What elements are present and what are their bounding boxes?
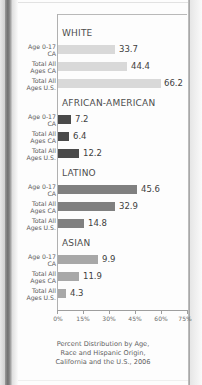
row-label-line2: Ages U.S. <box>26 154 56 161</box>
bar-aa-age017 <box>58 115 71 124</box>
x-tick-label-5: 75% <box>178 315 191 322</box>
x-tick-0 <box>57 310 58 314</box>
bar-white-total-ca <box>58 62 127 71</box>
y-axis-line <box>57 14 58 310</box>
caption-line-3: California and the U.S., 2006 <box>22 358 184 367</box>
x-tick-3 <box>135 310 136 314</box>
row-label-aa-age017: Age 0-17 CA <box>8 114 56 127</box>
group-title-asian: ASIAN <box>62 238 90 248</box>
bar-value-asian-total-us: 4.3 <box>70 288 84 298</box>
caption-line-2: Race and Hispanic Origin, <box>22 349 184 358</box>
bar-value-aa-total-us: 12.2 <box>83 148 102 158</box>
x-tick-label-2: 30% <box>102 315 115 322</box>
row-label-line2: Ages CA <box>30 137 56 144</box>
bar-value-white-total-us: 66.2 <box>164 78 183 88</box>
x-tick-label-0: 0% <box>53 315 63 322</box>
bar-value-white-age017: 33.7 <box>119 44 138 54</box>
row-label-latino-age017: Age 0-17 CA <box>8 184 56 197</box>
x-tick-label-3: 45% <box>128 315 141 322</box>
row-label-latino-total-ca: Total All Ages CA <box>8 201 56 214</box>
row-label-line2: Ages U.S. <box>26 294 56 301</box>
row-label-asian-total-us: Total All Ages U.S. <box>8 288 56 301</box>
row-label-line2: CA <box>47 50 56 57</box>
bar-value-aa-total-ca: 6.4 <box>73 131 87 141</box>
bar-value-white-total-ca: 44.4 <box>131 61 150 71</box>
bar-value-latino-total-us: 14.8 <box>88 218 107 228</box>
group-title-white: WHITE <box>62 28 93 38</box>
row-label-white-total-ca: Total All Ages CA <box>8 61 56 74</box>
row-label-line2: Ages CA <box>30 67 56 74</box>
group-title-latino: LATINO <box>62 168 96 178</box>
row-label-line2: CA <box>47 260 56 267</box>
bar-aa-total-us <box>58 149 79 158</box>
bar-value-asian-age017: 9.9 <box>102 254 116 264</box>
bar-aa-total-ca <box>58 132 69 141</box>
bar-latino-total-ca <box>58 202 115 211</box>
bar-value-latino-age017: 45.6 <box>141 184 160 194</box>
chart-caption: Percent Distribution by Age, Race and Hi… <box>22 340 184 367</box>
x-axis-line <box>57 310 187 311</box>
row-label-asian-age017: Age 0-17 CA <box>8 254 56 267</box>
row-label-line2: CA <box>47 190 56 197</box>
bar-value-latino-total-ca: 32.9 <box>119 201 138 211</box>
x-tick-5 <box>187 310 188 314</box>
x-tick-label-1: 15% <box>76 315 89 322</box>
caption-line-1: Percent Distribution by Age, <box>22 340 184 349</box>
bar-asian-age017 <box>58 255 98 264</box>
row-label-line2: Ages CA <box>30 277 56 284</box>
row-label-aa-total-us: Total All Ages U.S. <box>8 148 56 161</box>
row-label-line2: CA <box>47 120 56 127</box>
row-label-aa-total-ca: Total All Ages CA <box>8 131 56 144</box>
bar-latino-total-us <box>58 219 84 228</box>
row-label-white-age017: Age 0-17 CA <box>8 44 56 57</box>
bar-asian-total-us <box>58 289 66 298</box>
row-label-asian-total-ca: Total All Ages CA <box>8 271 56 284</box>
row-label-line2: Ages U.S. <box>26 224 56 231</box>
plot-top-rule <box>57 14 187 15</box>
bar-asian-total-ca <box>58 272 79 281</box>
x-tick-4 <box>161 310 162 314</box>
bar-value-aa-age017: 7.2 <box>75 114 89 124</box>
group-title-african-american: AFRICAN-AMERICAN <box>62 98 155 108</box>
bar-white-total-us <box>58 79 161 88</box>
x-tick-label-4: 60% <box>154 315 167 322</box>
x-tick-1 <box>83 310 84 314</box>
bar-latino-age017 <box>58 185 137 194</box>
bar-white-age017 <box>58 45 115 54</box>
row-label-white-total-us: Total All Ages U.S. <box>8 78 56 91</box>
bar-value-asian-total-ca: 11.9 <box>83 271 102 281</box>
row-label-line2: Ages CA <box>30 207 56 214</box>
x-tick-2 <box>109 310 110 314</box>
bar-chart: WHITE Age 0-17 CA 33.7 Total All Ages CA… <box>0 0 202 385</box>
row-label-latino-total-us: Total All Ages U.S. <box>8 218 56 231</box>
row-label-line2: Ages U.S. <box>26 84 56 91</box>
